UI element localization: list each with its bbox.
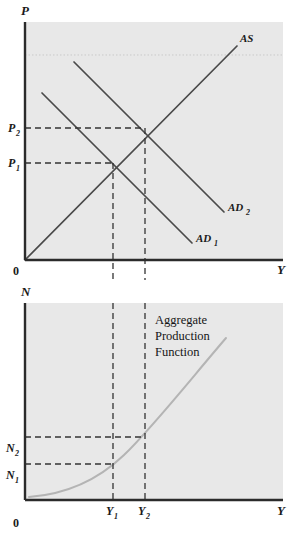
svg-text:1: 1 (214, 239, 218, 248)
top-origin-label: 0 (13, 264, 19, 278)
svg-text:1: 1 (15, 476, 19, 485)
svg-text:1: 1 (16, 164, 20, 173)
svg-text:AD: AD (195, 232, 211, 244)
y2-axis-label: Y 2 (138, 504, 150, 521)
bottom-y-axis-label: N (20, 284, 31, 299)
bottom-panel: N Y 0 N 2 N 1 Y 1 Y 2 Aggrega (5, 284, 286, 530)
n2-axis-label: N 2 (5, 441, 19, 458)
bottom-origin-label: 0 (13, 516, 19, 530)
svg-text:Production: Production (155, 329, 211, 343)
as-curve-label: AS (239, 32, 253, 44)
svg-text:AD: AD (227, 201, 243, 213)
svg-text:P: P (8, 121, 16, 135)
figure-container: P Y 0 P 2 P 1 AS AD 2 AD 1 (0, 0, 300, 543)
top-y-axis-label: P (21, 3, 30, 18)
bottom-x-axis-label: Y (277, 503, 286, 518)
svg-text:2: 2 (15, 129, 20, 138)
n1-axis-label: N 1 (5, 468, 19, 485)
p1-axis-label: P 1 (8, 156, 20, 173)
svg-text:Aggregate: Aggregate (155, 313, 208, 327)
economics-diagram: P Y 0 P 2 P 1 AS AD 2 AD 1 (0, 0, 300, 543)
top-x-axis-label: Y (277, 262, 286, 277)
svg-text:1: 1 (114, 512, 118, 521)
y1-axis-label: Y 1 (106, 504, 118, 521)
top-panel: P Y 0 P 2 P 1 AS AD 2 AD 1 (8, 3, 286, 280)
svg-text:2: 2 (14, 449, 19, 458)
svg-text:2: 2 (145, 512, 150, 521)
p2-axis-label: P 2 (8, 121, 20, 138)
svg-text:P: P (8, 156, 16, 170)
bottom-panel-background (25, 303, 283, 500)
svg-text:Function: Function (155, 345, 200, 359)
svg-text:2: 2 (245, 208, 250, 217)
